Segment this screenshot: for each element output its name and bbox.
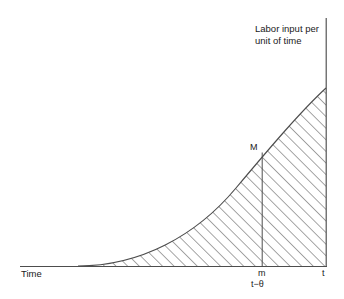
labor-input-figure: Labor input per unit of time Time M m t−… — [0, 0, 344, 299]
x-axis-label: Time — [21, 268, 42, 279]
x-tick-label-m: m — [258, 268, 266, 279]
hatched-area — [78, 88, 326, 266]
x-tick-label-t: t — [322, 268, 325, 279]
curve-point-label-m-upper: M — [250, 142, 258, 153]
y-axis-label: Labor input per unit of time — [255, 23, 341, 47]
x-tick-sublabel-t-minus-theta: t−θ — [251, 279, 264, 290]
